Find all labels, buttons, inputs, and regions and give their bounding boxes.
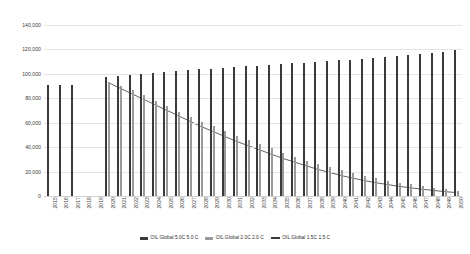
bar-5p0c (256, 66, 258, 196)
x-axis-tick-label: 2044 (388, 197, 394, 209)
bar-5p0c (280, 64, 282, 196)
chart-legend: OIL Global 5.0C 5.0 COIL Global 2.0C 2.0… (0, 235, 470, 241)
bar-5p0c (419, 54, 421, 196)
x-axis-tick-label: 2035 (284, 197, 290, 209)
x-axis-tick-label: 2046 (412, 197, 418, 209)
bar-2p0c (399, 183, 401, 196)
bar-2p0c (422, 186, 424, 196)
bar-5p0c (105, 77, 107, 196)
x-axis-tick-label: 2048 (435, 197, 441, 209)
bar-5p0c (326, 61, 328, 196)
x-axis-tick-label: 2023 (144, 197, 150, 209)
x-axis-tick-label: 2018 (86, 197, 92, 209)
bar-2p0c (294, 157, 296, 196)
x-axis-tick-label: 2045 (400, 197, 406, 209)
bar-5p0c (268, 65, 270, 196)
bar-2p0c (410, 184, 412, 196)
bar-2p0c (155, 101, 157, 196)
bar-5p0c (222, 68, 224, 196)
legend-bar-swatch-icon (140, 237, 148, 240)
bar-5p0c (291, 63, 293, 196)
bar-2p0c (457, 191, 459, 196)
x-axis-tick-label: 2039 (330, 197, 336, 209)
legend-item[interactable]: OIL Global 1.5C 1.5 C (271, 235, 330, 241)
bar-5p0c (454, 50, 456, 196)
bar-5p0c (233, 67, 235, 196)
x-axis-tick-label: 2022 (133, 197, 139, 209)
legend-label: OIL Global 1.5C 1.5 C (282, 235, 330, 241)
bar-2p0c (201, 122, 203, 197)
bar-5p0c (129, 75, 131, 196)
bar-2p0c (143, 95, 145, 196)
bar-2p0c (236, 136, 238, 196)
y-axis-tick-label: 140,000 (0, 22, 41, 28)
bar-2p0c (306, 161, 308, 196)
x-axis-tick-label: 2041 (353, 197, 359, 209)
x-axis-tick-label: 2033 (261, 197, 267, 209)
bar-2p0c (120, 86, 122, 196)
legend-line-swatch-icon (271, 237, 280, 238)
legend-bar-swatch-icon (205, 237, 213, 240)
legend-item[interactable]: OIL Global 2.0C 2.0 C (205, 235, 263, 241)
bar-2p0c (259, 144, 261, 196)
legend-label: OIL Global 2.0C 2.0 C (216, 235, 264, 241)
bar-2p0c (271, 148, 273, 196)
y-axis-tick-label: 120,000 (0, 46, 41, 52)
x-axis-tick-label: 2042 (365, 197, 371, 209)
bar-5p0c (349, 60, 351, 196)
bar-2p0c (178, 112, 180, 196)
y-axis-tick-label: 20,000 (0, 169, 41, 175)
y-axis-tick-label: 0 (0, 193, 41, 199)
bar-5p0c (163, 72, 165, 196)
bar-5p0c (59, 85, 61, 196)
bar-5p0c (361, 59, 363, 196)
bar-2p0c (108, 82, 110, 196)
x-axis: 2015201620172018201920202021202220232024… (44, 197, 462, 227)
x-axis-tick-label: 2021 (121, 197, 127, 209)
x-axis-tick-label: 2027 (191, 197, 197, 209)
y-axis-tick-label: 80,000 (0, 95, 41, 101)
bar-2p0c (282, 153, 284, 196)
bar-5p0c (384, 57, 386, 196)
bar-5p0c (198, 69, 200, 196)
bar-5p0c (187, 70, 189, 196)
bar-2p0c (364, 176, 366, 196)
bar-5p0c (117, 76, 119, 196)
x-axis-tick-label: 2029 (214, 197, 220, 209)
bar-5p0c (338, 60, 340, 196)
bar-5p0c (210, 69, 212, 196)
x-axis-tick-label: 2043 (377, 197, 383, 209)
bar-5p0c (47, 85, 49, 196)
x-axis-tick-label: 2019 (98, 197, 104, 209)
bar-2p0c (317, 164, 319, 196)
x-axis-tick-label: 2031 (237, 197, 243, 209)
x-axis-tick-label: 2049 (446, 197, 452, 209)
bar-5p0c (442, 52, 444, 196)
bar-2p0c (375, 178, 377, 196)
y-axis-tick-label: 40,000 (0, 144, 41, 150)
x-axis-tick-label: 2024 (156, 197, 162, 209)
bar-5p0c (407, 55, 409, 196)
bar-5p0c (314, 62, 316, 196)
x-axis-tick-label: 2036 (295, 197, 301, 209)
x-axis-tick-label: 2038 (319, 197, 325, 209)
bar-5p0c (140, 74, 142, 196)
y-axis-tick-label: 60,000 (0, 120, 41, 126)
x-axis-tick-label: 2034 (272, 197, 278, 209)
y-axis-tick-label: 100,000 (0, 71, 41, 77)
bar-5p0c (396, 56, 398, 196)
bar-2p0c (213, 126, 215, 196)
x-axis-tick-label: 2040 (342, 197, 348, 209)
x-axis-tick-label: 2050 (458, 197, 464, 209)
legend-item[interactable]: OIL Global 5.0C 5.0 C (140, 235, 198, 241)
gridline (44, 49, 462, 50)
x-axis-tick-label: 2016 (63, 197, 69, 209)
plot-area (44, 25, 462, 196)
bar-5p0c (372, 58, 374, 196)
x-axis-tick-label: 2026 (179, 197, 185, 209)
bar-2p0c (190, 117, 192, 196)
bar-5p0c (431, 53, 433, 196)
bar-2p0c (248, 140, 250, 196)
x-axis-tick-label: 2025 (168, 197, 174, 209)
bar-2p0c (352, 173, 354, 196)
